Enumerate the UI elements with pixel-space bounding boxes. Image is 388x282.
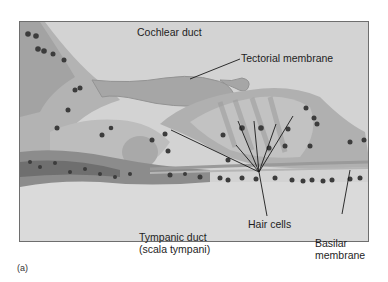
label-basilar: Basilar xyxy=(315,237,347,249)
label-tectorial-membrane: Tectorial membrane xyxy=(241,52,333,64)
label-tympanic-duct: Tympanic duct xyxy=(139,231,207,243)
label-basilar-membrane: membrane xyxy=(315,249,365,261)
label-scala-tympani: (scala tympani) xyxy=(139,243,210,255)
label-hair-cells: Hair cells xyxy=(248,218,291,230)
label-cochlear-duct: Cochlear duct xyxy=(137,26,202,38)
panel-label: (a) xyxy=(17,263,28,273)
